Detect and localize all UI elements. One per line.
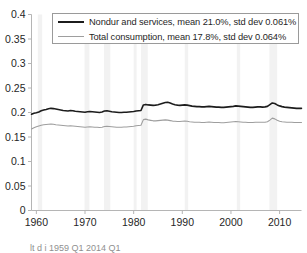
x-tick-label: 2010 — [255, 217, 305, 228]
y-tick-label: 0.3 — [0, 58, 26, 69]
y-tick-label: 0.15 — [0, 132, 26, 143]
chart-legend: Nondur and services, mean 21.0%, std dev… — [52, 13, 299, 44]
legend-item-total-consumption: Total consumption, mean 17.8%, std dev 0… — [53, 29, 298, 44]
legend-label-nondur-services: Nondur and services, mean 21.0%, std dev… — [89, 17, 296, 27]
y-tick-label: 0.4 — [0, 9, 26, 20]
x-tick-label: 1980 — [109, 217, 159, 228]
series-lines-group — [32, 102, 302, 129]
y-tick-label: 0.25 — [0, 83, 26, 94]
y-tick-label: 0 — [0, 205, 26, 216]
y-tick-label: 0.1 — [0, 156, 26, 167]
figure-caption: lt d i 1959 Q1 2014 Q1 — [0, 243, 307, 253]
x-tick-label: 1990 — [157, 217, 207, 228]
legend-item-nondur-services: Nondur and services, mean 21.0%, std dev… — [53, 14, 298, 29]
x-tick-label: 1960 — [11, 217, 61, 228]
y-tick-label: 0.2 — [0, 107, 26, 118]
x-tick-label: 2000 — [206, 217, 256, 228]
legend-label-total-consumption: Total consumption, mean 17.8%, std dev 0… — [89, 32, 286, 42]
tick-marks — [28, 15, 280, 215]
x-tick-label: 1970 — [60, 217, 110, 228]
consumption-share-chart: 00.050.10.150.20.250.30.350.419601970198… — [0, 0, 307, 253]
y-tick-label: 0.05 — [0, 181, 26, 192]
y-tick-label: 0.35 — [0, 34, 26, 45]
